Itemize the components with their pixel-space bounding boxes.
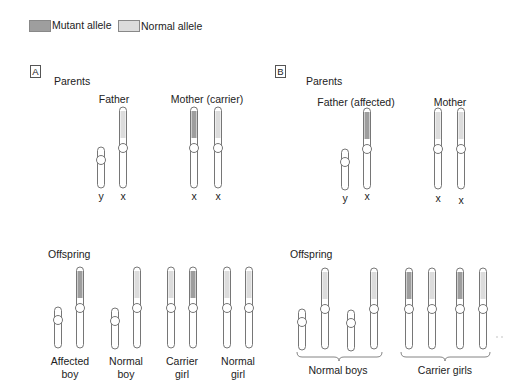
carrier-girls-chromosomes [405, 268, 488, 349]
carrier-girl-chromosomes [167, 267, 198, 348]
panel-a-father-x-chromosome [119, 107, 128, 188]
panel-a-mother-x1-chromosome [190, 107, 199, 188]
normal-boy-chromosomes [111, 267, 142, 349]
carrier-girls-bracket [401, 352, 490, 361]
panel-b-mother-x1-chromosome [434, 108, 443, 189]
panel-a-mother-x2-chromosome [214, 107, 223, 188]
panel-b-father-y-chromosome [341, 149, 350, 190]
normal-boys-bracket [297, 352, 382, 361]
panel-b-mother-x2-chromosome [457, 108, 466, 189]
chromosome-diagram [0, 0, 526, 390]
panel-a-father-y-chromosome [97, 147, 106, 188]
panel-b-father-x-chromosome [363, 108, 372, 189]
affected-boy-chromosomes [54, 267, 85, 348]
normal-girl-chromosomes [223, 267, 254, 348]
normal-boys-chromosomes [298, 268, 379, 351]
scan-artifact [496, 336, 503, 338]
